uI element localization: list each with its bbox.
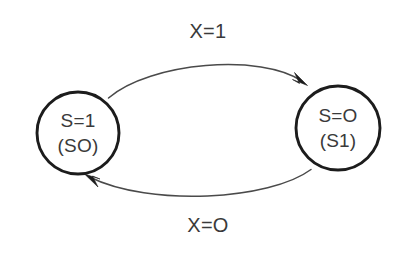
state-left-circle (37, 92, 119, 174)
state-right-label-line1: S=O (318, 105, 357, 126)
transition-top[interactable] (109, 65, 308, 98)
transition-top-label: X=1 (189, 20, 226, 42)
transition-bottom[interactable] (85, 170, 312, 197)
state-node-left[interactable]: S=1 (SO) (37, 92, 119, 174)
state-diagram-svg: S=1 (SO) S=O (S1) X=1 X=O (0, 0, 411, 264)
transition-bottom-arc (90, 170, 312, 197)
state-diagram-canvas: S=1 (SO) S=O (S1) X=1 X=O (0, 0, 411, 264)
transition-top-arrowhead-icon (293, 73, 308, 86)
transition-top-arc (109, 65, 303, 98)
state-left-label-line2: (SO) (58, 135, 99, 156)
state-right-circle (296, 86, 380, 170)
state-left-label-line1: S=1 (61, 110, 96, 131)
state-right-label-line2: (S1) (320, 130, 357, 151)
state-node-right[interactable]: S=O (S1) (296, 86, 380, 170)
transition-bottom-label: X=O (187, 214, 228, 236)
